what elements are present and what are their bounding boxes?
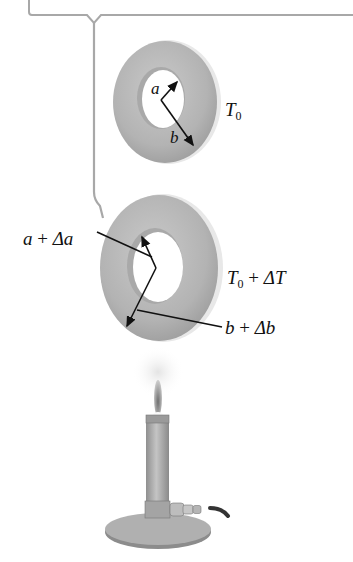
washer-heated (97, 194, 223, 342)
diagram-canvas (0, 0, 353, 562)
label-T0: T0 (225, 100, 242, 122)
label-b: b (170, 129, 179, 146)
washer-initial (113, 40, 221, 164)
label-T0-plus-delta-T: T0 + ΔT (227, 268, 286, 290)
label-a-plus-delta-a: a + Δa (23, 229, 73, 248)
label-a: a (151, 80, 160, 97)
bunsen-burner (105, 346, 228, 549)
label-b-plus-delta-b: b + Δb (225, 318, 275, 337)
